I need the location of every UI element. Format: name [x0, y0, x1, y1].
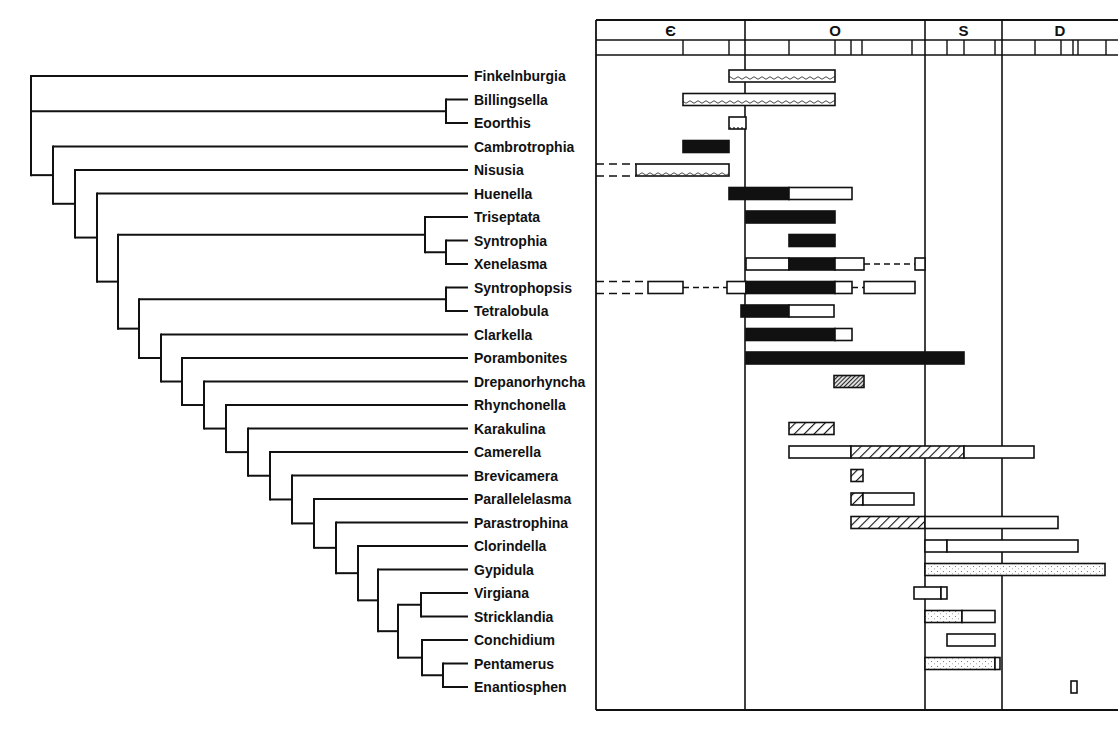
taxon-label: Brevicamera — [474, 468, 558, 484]
taxon-label: Clorindella — [474, 538, 547, 554]
range-bar-gypidula — [925, 564, 1105, 576]
range-bar-parallelelasma — [851, 493, 914, 505]
taxon-label: Porambonites — [474, 350, 568, 366]
taxon-label: Camerella — [474, 444, 541, 460]
taxon-label: Eoorthis — [474, 115, 531, 131]
range-bar-virgiana — [914, 587, 947, 599]
cladogram-tree — [31, 75, 468, 688]
range-bar-tetralobula — [741, 305, 834, 317]
taxon-label: Billingsella — [474, 92, 548, 108]
range-bar-eoorthis — [729, 117, 746, 129]
period-label-devonian: D — [1055, 22, 1066, 39]
taxon-label: Parallelelasma — [474, 491, 572, 507]
range-bar-billingsella — [683, 94, 835, 106]
taxon-label: Syntrophopsis — [474, 280, 572, 296]
taxon-label: Clarkella — [474, 327, 533, 343]
range-bar-syntrophia — [789, 235, 835, 247]
taxon-label: Rhynchonella — [474, 397, 566, 413]
taxon-label: Huenella — [474, 186, 533, 202]
taxon-label: Syntrophia — [474, 233, 547, 249]
range-bar-triseptata — [746, 211, 835, 223]
cladogram-figure: ЄOSD FinkelnburgiaBillingsellaEoorthisCa… — [0, 0, 1118, 733]
taxon-labels: FinkelnburgiaBillingsellaEoorthisCambrot… — [474, 68, 585, 695]
range-bar-conchidium — [947, 634, 995, 646]
range-bar-xenelasma — [746, 258, 925, 270]
taxon-label: Virgiana — [474, 585, 529, 601]
taxon-label: Gypidula — [474, 562, 534, 578]
range-bar-cambrotrophia — [683, 141, 729, 153]
range-bar-drepanorhyncha — [834, 376, 864, 388]
range-bar-parastrophina — [851, 517, 1058, 529]
range-bar-pentamerus — [925, 658, 1000, 670]
range-bar-porambonites — [746, 352, 964, 364]
period-header: ЄOSD — [665, 22, 1106, 55]
period-label-ordovician: O — [829, 22, 841, 39]
range-bar-enantiosphen — [1071, 681, 1077, 693]
taxon-label: Triseptata — [474, 209, 540, 225]
range-bar-syntrophopsis — [596, 282, 915, 294]
taxon-label: Nisusia — [474, 162, 524, 178]
taxon-label: Tetralobula — [474, 303, 549, 319]
range-bar-finkelnburgia — [729, 70, 835, 82]
taxon-label: Enantiosphen — [474, 679, 567, 695]
taxon-label: Cambrotrophia — [474, 139, 575, 155]
taxon-label: Pentamerus — [474, 656, 554, 672]
range-bar-camerella — [789, 446, 1034, 458]
range-bar-clorindella — [925, 540, 1078, 552]
range-bar-brevicamera — [851, 470, 863, 482]
taxon-label: Finkelnburgia — [474, 68, 566, 84]
range-bars — [596, 70, 1105, 693]
range-bar-huenella — [729, 188, 852, 200]
range-bar-karakulina — [789, 423, 834, 435]
period-label-cambrian: Є — [665, 22, 676, 39]
taxon-label: Drepanorhyncha — [474, 374, 585, 390]
range-bar-stricklandia — [925, 611, 995, 623]
range-bar-clarkella — [746, 329, 852, 341]
chart-frame — [596, 20, 1118, 710]
taxon-label: Xenelasma — [474, 256, 547, 272]
taxon-label: Conchidium — [474, 632, 555, 648]
taxon-label: Parastrophina — [474, 515, 568, 531]
range-bar-nisusia — [596, 164, 729, 176]
taxon-label: Stricklandia — [474, 609, 554, 625]
period-label-silurian: S — [958, 22, 968, 39]
taxon-label: Karakulina — [474, 421, 546, 437]
